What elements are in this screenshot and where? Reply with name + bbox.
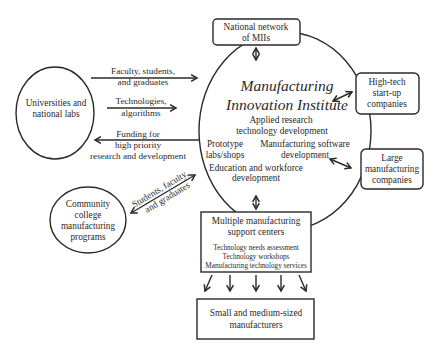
activity-education-workforce: Education and workforce xyxy=(209,163,303,173)
sme-box xyxy=(197,299,314,339)
distribution-arrow-5 xyxy=(299,275,306,291)
community-college-line3: manufacturing xyxy=(61,221,116,231)
support-centers-title-line2: support centers xyxy=(228,227,285,237)
support-centers-node: Multiple manufacturing support centers T… xyxy=(201,212,311,272)
activity-labs-shops: labs/shops xyxy=(206,150,245,160)
activity-applied-research: Applied research xyxy=(249,115,313,125)
support-centers-title-line1: Multiple manufacturing xyxy=(212,216,301,226)
funding-label-line2: high priority xyxy=(115,140,162,150)
universities-node: Universities and national labs xyxy=(16,67,94,159)
distribution-arrow-1 xyxy=(205,275,212,291)
faculty-label-line2: and graduates xyxy=(118,77,169,87)
mii-title-line1: Manufacturing xyxy=(240,77,334,94)
service-needs-assessment: Technology needs assessment xyxy=(213,244,299,252)
sme-line1: Small and medium-sized xyxy=(210,308,303,318)
faculty-label-line1: Faculty, students, xyxy=(111,66,175,76)
national-network-node: National network of MIIs xyxy=(213,19,300,45)
high-tech-node: High-tech start-up companies xyxy=(356,73,419,114)
technologies-label-line1: Technologies, xyxy=(115,96,166,106)
large-mfg-line3: companies xyxy=(372,175,412,185)
activity-mfg-software: Manufacturing software xyxy=(260,139,350,149)
community-college-line2: college xyxy=(75,210,102,220)
activity-prototype: Prototype xyxy=(207,139,243,149)
community-college-line1: Community xyxy=(66,199,111,209)
activity-education-development: development xyxy=(232,173,280,183)
national-network-line2: of MIIs xyxy=(242,33,271,43)
mii-ecosystem-diagram: Manufacturing Innovation Institute Appli… xyxy=(0,0,432,354)
funding-label-line3: research and development xyxy=(90,151,186,161)
universities-line2: national labs xyxy=(32,109,80,119)
mii-title-line2: Innovation Institute xyxy=(225,96,348,113)
universities-line1: Universities and xyxy=(26,98,87,108)
service-workshops: Technology workshops xyxy=(223,253,290,261)
community-college-ellipse xyxy=(50,187,126,253)
mii-node: Manufacturing Innovation Institute Appli… xyxy=(199,32,371,230)
community-college-node: Community college manufacturing programs xyxy=(50,187,126,253)
large-mfg-line1: Large xyxy=(381,153,403,163)
service-mfg-technology: Manufacturing technology services xyxy=(205,262,307,270)
technologies-label-line2: algorithms xyxy=(121,108,161,118)
high-tech-line2: start-up xyxy=(373,88,402,98)
activity-technology-development: technology development xyxy=(236,126,328,136)
sme-node: Small and medium-sized manufacturers xyxy=(197,299,314,339)
high-tech-line3: companies xyxy=(367,99,407,109)
funding-label-line1: Funding for xyxy=(116,129,160,139)
high-tech-line1: High-tech xyxy=(368,77,406,87)
large-mfg-line2: manufacturing xyxy=(365,164,420,174)
sme-line2: manufacturers xyxy=(229,320,283,330)
large-mfg-node: Large manufacturing companies xyxy=(361,149,423,189)
national-network-line1: National network xyxy=(224,22,289,32)
community-college-line4: programs xyxy=(70,232,105,242)
activity-mfg-software-development: development xyxy=(281,150,329,160)
